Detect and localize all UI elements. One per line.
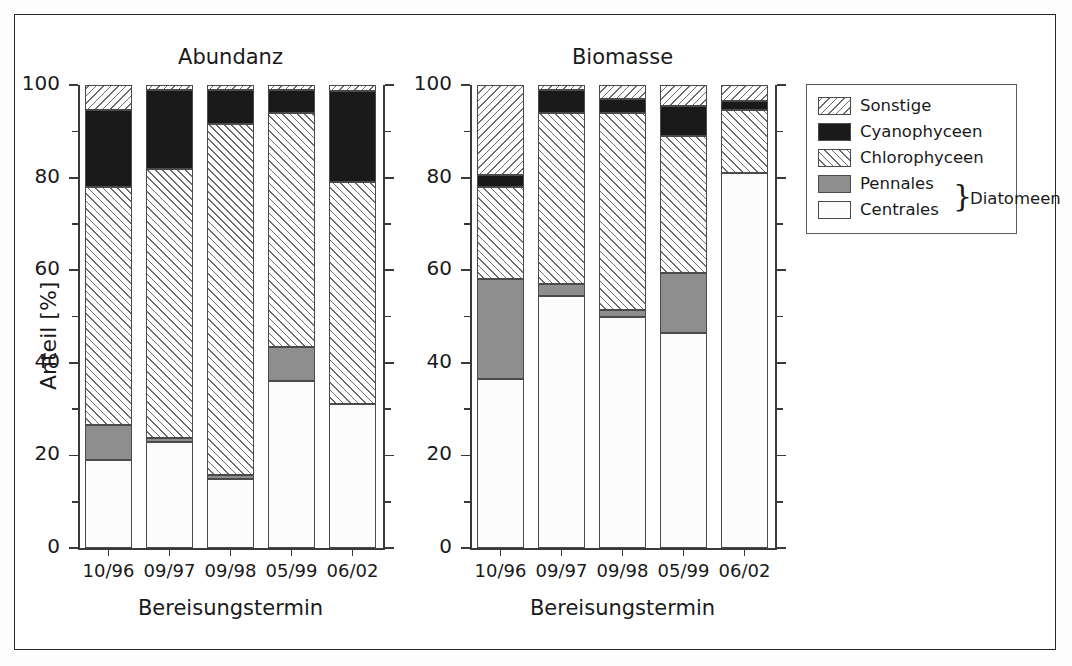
y-axis-title: Anteil [%]: [36, 282, 61, 390]
bar-segment-cyanophyceen: [207, 90, 255, 125]
y-tick-major-right: [777, 84, 786, 86]
y-tick-label: 60: [400, 256, 452, 280]
y-tick-major-right: [385, 84, 394, 86]
bar-segment-sonstige: [660, 85, 708, 106]
y-tick-minor-right: [385, 131, 391, 133]
bar-segment-sonstige: [207, 85, 255, 90]
stacked-bar: [477, 85, 525, 548]
bar-segment-centrales: [538, 296, 586, 548]
bar-segment-cyanophyceen: [538, 90, 586, 113]
y-tick-major-right: [385, 269, 394, 271]
panel-title: Biomasse: [470, 45, 775, 69]
bar-segment-pennales: [538, 284, 586, 296]
y-tick-label: 40: [400, 349, 452, 373]
stacked-bar: [146, 85, 194, 548]
y-tick-minor-right: [777, 316, 783, 318]
bar-segment-pennales: [146, 438, 194, 442]
y-tick-major-right: [385, 362, 394, 364]
y-tick-major-right: [777, 362, 786, 364]
y-tick-label: 80: [8, 164, 60, 188]
stacked-bar: [599, 85, 647, 548]
legend-swatch-cyano: [818, 123, 851, 141]
y-tick-major-right: [777, 455, 786, 457]
bar-segment-sonstige: [268, 85, 316, 90]
y-tick-major: [461, 455, 470, 457]
stacked-bar: [207, 85, 255, 548]
bar-segment-chlorophyceen: [599, 113, 647, 310]
y-tick-major: [461, 84, 470, 86]
y-tick-major: [461, 177, 470, 179]
legend-label: Sonstige: [860, 94, 931, 118]
bar-segment-cyanophyceen: [146, 90, 194, 170]
stacked-bar: [538, 85, 586, 548]
bar-segment-chlorophyceen: [477, 187, 525, 280]
panel-title: Abundanz: [78, 45, 383, 69]
y-tick-minor-right: [385, 501, 391, 503]
bar-segment-sonstige: [329, 85, 377, 91]
bar-segment-cyanophyceen: [721, 101, 769, 110]
bar-segment-chlorophyceen: [207, 124, 255, 475]
bar-segment-cyanophyceen: [477, 175, 525, 187]
y-tick-minor: [72, 501, 78, 503]
y-axis-line: [78, 85, 80, 549]
stacked-bar: [268, 85, 316, 548]
y-tick-minor: [72, 408, 78, 410]
x-axis-title: Bereisungstermin: [470, 596, 775, 620]
x-axis-title: Bereisungstermin: [78, 596, 383, 620]
x-axis-line: [470, 548, 777, 550]
y-tick-major: [69, 84, 78, 86]
legend-swatch-pennales: [818, 175, 851, 193]
bar-segment-cyanophyceen: [268, 90, 316, 113]
bar-segment-centrales: [329, 404, 377, 548]
bar-segment-sonstige: [85, 85, 133, 110]
y-tick-minor: [464, 131, 470, 133]
x-axis-line: [78, 548, 385, 550]
y-tick-major-right: [385, 547, 394, 549]
y-tick-label: 20: [8, 441, 60, 465]
y-tick-minor: [464, 408, 470, 410]
y-tick-major: [461, 362, 470, 364]
x-tick-label: 06/02: [703, 560, 787, 581]
y-tick-label: 100: [400, 71, 452, 95]
bar-segment-centrales: [660, 333, 708, 548]
legend-swatch-sonstige: [818, 97, 851, 115]
bar-segment-chlorophyceen: [660, 136, 708, 273]
legend-swatch-centrales: [818, 201, 851, 219]
y-tick-major: [69, 547, 78, 549]
bar-segment-chlorophyceen: [721, 110, 769, 173]
y-tick-major: [461, 547, 470, 549]
bar-segment-pennales: [599, 310, 647, 317]
y-tick-minor-right: [777, 131, 783, 133]
bar-segment-chlorophyceen: [146, 169, 194, 438]
series-legend: SonstigeCyanophyceenChlorophyceenPennale…: [806, 84, 1017, 234]
y-tick-major-right: [385, 177, 394, 179]
y-tick-minor: [72, 131, 78, 133]
bar-segment-sonstige: [599, 85, 647, 99]
y-tick-minor-right: [385, 316, 391, 318]
x-tick-label: 06/02: [311, 560, 395, 581]
bar-segment-sonstige: [477, 85, 525, 175]
y-tick-minor: [464, 316, 470, 318]
stacked-bar: [329, 85, 377, 548]
bar-segment-cyanophyceen: [660, 106, 708, 136]
y-tick-major-right: [777, 177, 786, 179]
stacked-bar: [721, 85, 769, 548]
bar-segment-centrales: [599, 317, 647, 549]
y-tick-label: 100: [8, 71, 60, 95]
bar-segment-chlorophyceen: [538, 113, 586, 284]
bar-segment-chlorophyceen: [329, 182, 377, 404]
y-tick-major: [69, 362, 78, 364]
y-tick-label: 0: [8, 534, 60, 558]
bar-segment-pennales: [85, 425, 133, 460]
y-tick-minor: [72, 316, 78, 318]
y-tick-label: 80: [400, 164, 452, 188]
bar-segment-cyanophyceen: [599, 99, 647, 113]
y-tick-minor-right: [777, 408, 783, 410]
stacked-bar: [660, 85, 708, 548]
figure-canvas: Abundanz02040608010010/9609/9709/9805/99…: [0, 0, 1072, 666]
y-tick-major: [69, 269, 78, 271]
bar-segment-pennales: [207, 475, 255, 479]
y-tick-minor-right: [777, 223, 783, 225]
y-tick-major: [461, 269, 470, 271]
bar-segment-pennales: [477, 279, 525, 379]
